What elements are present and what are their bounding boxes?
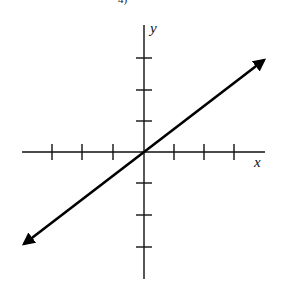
y-axis-label: y: [150, 20, 157, 37]
coordinate-plot: [0, 0, 285, 296]
x-axis-label: x: [254, 154, 261, 171]
